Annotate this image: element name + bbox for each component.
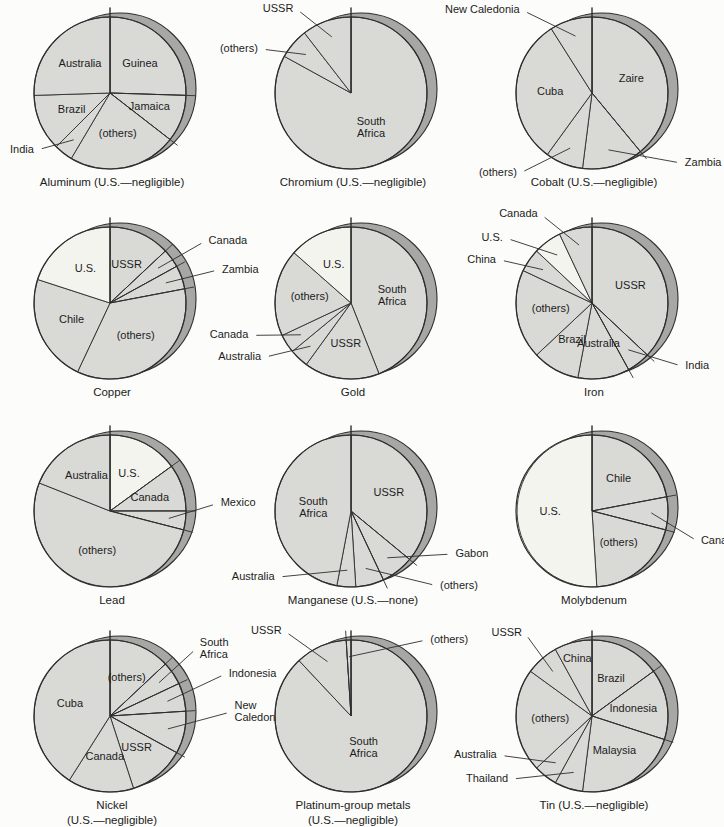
label-ussr: USSR [331,337,362,349]
label-others: (others) [291,290,329,302]
label-ussr: USSR [374,486,405,498]
label-u-s: U.S. [481,231,502,243]
chart-title: Lead [0,593,224,608]
label-canada: Canada [210,328,249,340]
manganese-u-s-none-pie: USSRGabon(others)AustraliaSouthAfrica [241,418,482,594]
label-others: (others) [78,544,116,556]
chart-cell-chromium-u-s-negligible: SouthAfrica(others)USSRChromium (U.S.—ne… [241,0,482,210]
label-china: China [467,253,497,265]
cobalt-u-s-negligible-pie: ZaireZambia(others)CubaNew Caledonia [482,0,723,176]
label-others: (others) [220,42,258,54]
label-australia: Australia [218,350,262,362]
label-canada: Canada [499,207,538,219]
chart-cell-nickel: (others)SouthAfricaIndonesiaNewCaledonia… [0,623,241,827]
label-zambia: Zambia [685,156,723,168]
label-australia: Australia [65,469,109,481]
label-zaire: Zaire [619,72,644,84]
label-others: (others) [117,329,155,341]
label-chile: Chile [606,472,631,484]
chart-cell-lead: U.S.CanadaMexico(others)AustraliaLead [0,418,241,623]
label-australia: Australia [232,570,276,582]
nickel-pie: (others)SouthAfricaIndonesiaNewCaledonia… [0,623,241,799]
chart-title: Tin (U.S.—negligible) [482,798,706,813]
label-others: (others) [430,633,468,645]
chart-title: Manganese (U.S.—none) [241,593,465,608]
label-ussr: USSR [263,2,294,14]
label-south-africa: SouthAfrica [378,283,407,307]
label-india: India [10,143,35,155]
chart-cell-gold: SouthAfricaUSSRAustraliaCanada(others)U.… [241,210,482,418]
label-south-africa: SouthAfrica [349,735,378,759]
chart-cell-manganese-u-s-none: USSRGabon(others)AustraliaSouthAfricaMan… [241,418,482,623]
label-others: (others) [440,579,478,591]
label-ussr: USSR [251,624,282,636]
leader-line [256,335,301,336]
label-indonesia: Indonesia [609,702,658,714]
chart-title: Nickel (U.S.—negligible) [0,798,224,827]
lead-pie: U.S.CanadaMexico(others)Australia [0,418,241,594]
label-others: (others) [479,166,517,178]
chromium-u-s-negligible-pie: SouthAfrica(others)USSR [241,0,482,176]
molybdenum-pie: ChileCanada(others)U.S. [482,418,723,594]
label-u-s: U.S. [539,505,560,517]
chart-title: Platinum-group metals (U.S.—negligible) [241,798,465,827]
chart-title: Copper [0,385,224,400]
label-brazil: Brazil [558,333,586,345]
label-thailand: Thailand [466,772,508,784]
chart-cell-platinum-group-metals: SouthAfricaUSSR(others)Platinum-group me… [241,623,482,827]
chart-title: Aluminum (U.S.—negligible) [0,175,224,190]
label-u-s: U.S. [323,258,344,270]
chart-cell-tin-u-s-negligible: BrazilIndonesiaMalaysiaThailandAustralia… [482,623,724,827]
label-others: (others) [531,712,569,724]
label-others: (others) [600,536,638,548]
label-south-africa: SouthAfrica [299,495,328,519]
label-india: India [685,359,710,371]
label-brazil: Brazil [58,103,86,115]
label-ussr: USSR [121,741,152,753]
label-canada: Canada [86,750,125,762]
label-chile: Chile [59,313,84,325]
label-guinea: Guinea [122,57,158,69]
label-south-africa: SouthAfrica [357,114,386,138]
label-canada: Canada [131,491,170,503]
label-u-s: U.S. [75,262,96,274]
label-malaysia: Malaysia [593,744,637,756]
label-ussr: USSR [491,626,522,638]
label-canada: Canada [701,534,724,546]
chart-cell-copper: USSRCanadaZambia(others)ChileU.S.Copper [0,210,241,418]
pie-grid: GuineaJamaica(others)IndiaBrazilAustrali… [0,0,724,827]
label-brazil: Brazil [597,672,625,684]
label-u-s: U.S. [118,467,139,479]
gold-pie: SouthAfricaUSSRAustraliaCanada(others)U.… [241,210,482,386]
copper-pie: USSRCanadaZambia(others)ChileU.S. [0,210,241,386]
chart-title: Chromium (U.S.—negligible) [241,175,465,190]
chart-cell-molybdenum: ChileCanada(others)U.S.Molybdenum [482,418,724,623]
chart-title: Molybdenum [482,593,706,608]
label-ussr: USSR [111,258,142,270]
label-south-africa: SouthAfrica [200,636,229,660]
label-jamaica: Jamaica [129,100,171,112]
chart-cell-iron: USSRIndiaAustraliaBrazil(others)ChinaU.S… [482,210,724,418]
tin-u-s-negligible-pie: BrazilIndonesiaMalaysiaThailandAustralia… [482,623,723,799]
label-australia: Australia [454,748,498,760]
label-ussr: USSR [615,279,646,291]
label-others: (others) [108,671,146,683]
aluminum-u-s-negligible-pie: GuineaJamaica(others)IndiaBrazilAustrali… [0,0,241,176]
label-australia: Australia [59,57,103,69]
label-new-caledonia: New Caledonia [445,3,520,15]
label-china: China [563,652,593,664]
chart-title: Gold [241,385,465,400]
chart-cell-aluminum-u-s-negligible: GuineaJamaica(others)IndiaBrazilAustrali… [0,0,241,210]
chart-cell-cobalt-u-s-negligible: ZaireZambia(others)CubaNew CaledoniaCoba… [482,0,724,210]
label-others: (others) [532,302,570,314]
iron-pie: USSRIndiaAustraliaBrazil(others)ChinaU.S… [482,210,723,386]
chart-title: Iron [482,385,706,400]
label-cuba: Cuba [57,697,84,709]
label-cuba: Cuba [537,85,564,97]
platinum-group-metals-pie: SouthAfricaUSSR(others) [241,623,482,799]
label-others: (others) [99,127,137,139]
